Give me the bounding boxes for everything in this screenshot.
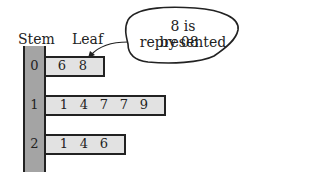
callout-line-2: by 08 xyxy=(124,34,234,50)
callout-arrow-line xyxy=(91,42,128,55)
